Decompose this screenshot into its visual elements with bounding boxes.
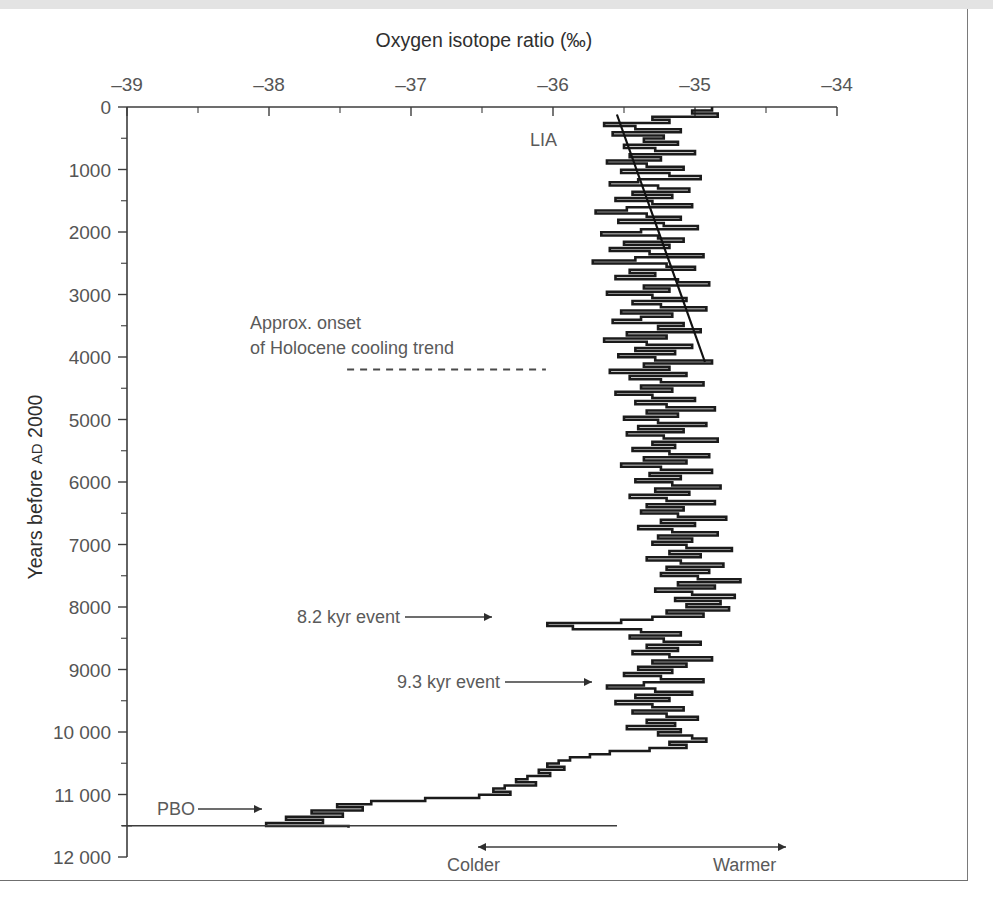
- x-tick-label: –37: [395, 74, 427, 95]
- annotation-overlay-layer: [122, 115, 786, 848]
- isotope-plot-svg: –39–38–37–36–35–340100020003000400050006…: [0, 9, 968, 880]
- y-axis-title-main: Years before: [24, 464, 46, 579]
- y-tick-label: 7000: [69, 535, 111, 556]
- x-tick-label: –36: [537, 74, 569, 95]
- annotation-warmer: Warmer: [713, 855, 776, 875]
- data-series-layer: [266, 107, 740, 828]
- y-tick-label: 11 000: [54, 785, 111, 806]
- x-axis-title: Oxygen isotope ratio (‰): [376, 29, 593, 51]
- y-tick-label: 5000: [69, 410, 111, 431]
- x-tick-label: –35: [679, 74, 711, 95]
- y-tick-label: 3000: [69, 285, 111, 306]
- y-tick-label: 0: [100, 97, 111, 118]
- x-tick-label: –34: [821, 74, 853, 95]
- y-axis-title: Years before AD 2000: [24, 394, 46, 579]
- annotation-lia: LIA: [530, 130, 557, 150]
- y-tick-label: 4000: [69, 347, 111, 368]
- annotation-pbo: PBO: [157, 799, 195, 819]
- annotation-event-9300: 9.3 kyr event: [397, 672, 500, 692]
- svg-text:Years before AD 2000: Years before AD 2000: [24, 394, 46, 579]
- annotation-event-8200: 8.2 kyr event: [297, 607, 400, 627]
- isotope-step-series: [266, 107, 740, 828]
- isotope-figure: –39–38–37–36–35–340100020003000400050006…: [0, 9, 968, 880]
- page-frame-bottom-rule: [0, 880, 968, 881]
- y-tick-label: 12 000: [53, 847, 111, 868]
- annotation-holocene-onset-line1: Approx. onset: [250, 313, 361, 333]
- annotation-colder: Colder: [447, 855, 500, 875]
- x-tick-label: –38: [253, 74, 285, 95]
- y-tick-label: 6000: [69, 472, 111, 493]
- axes-layer: –39–38–37–36–35–340100020003000400050006…: [53, 74, 853, 868]
- y-tick-label: 1000: [69, 160, 111, 181]
- y-tick-label: 9000: [69, 660, 111, 681]
- y-axis-title-tail: 2000: [24, 394, 46, 443]
- page-top-band: [0, 0, 993, 9]
- y-tick-label: 2000: [69, 222, 111, 243]
- annotation-holocene-onset-line2: of Holocene cooling trend: [250, 338, 454, 358]
- y-tick-label: 8000: [69, 597, 111, 618]
- y-axis-title-smallcaps: AD: [28, 443, 45, 464]
- x-tick-label: –39: [111, 74, 143, 95]
- y-tick-label: 10 000: [53, 722, 111, 743]
